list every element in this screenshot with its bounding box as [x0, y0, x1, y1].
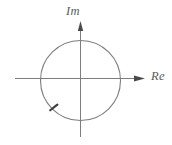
imaginary-axis-label: Im — [66, 5, 80, 18]
figure-background — [0, 0, 172, 145]
complex-plane-canvas — [0, 0, 172, 145]
real-axis-label: Re — [151, 70, 165, 83]
complex-plane-figure: Im Re — [0, 0, 172, 145]
